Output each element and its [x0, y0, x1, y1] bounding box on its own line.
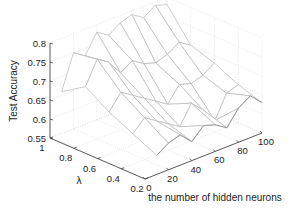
y-tick-label: 0.6	[83, 163, 96, 174]
z-tick-label: 0.65	[28, 95, 47, 106]
y-tick-label: 0.8	[59, 152, 72, 163]
y-tick-label: 1	[39, 142, 44, 153]
y-tick-label: 0.4	[107, 173, 120, 184]
y-axis-label: λ	[77, 175, 82, 186]
x-tick-label: 80	[237, 145, 248, 156]
x-tick-label: 20	[167, 173, 178, 184]
accuracy-surface	[62, 5, 262, 156]
x-tick-label: 100	[258, 136, 274, 147]
z-tick-label: 0.75	[28, 57, 47, 68]
surface-chart: 0.550.60.650.70.750.80.20.40.60.81020406…	[0, 0, 292, 211]
x-tick-label: 60	[214, 154, 225, 165]
z-tick-label: 0.8	[33, 38, 46, 49]
y-tick-label: 0.2	[130, 183, 143, 194]
z-tick-label: 0.7	[33, 76, 46, 87]
x-tick-label: 40	[191, 164, 202, 175]
z-axis-label: Test Accuracy	[8, 60, 19, 122]
z-tick-label: 0.6	[33, 114, 46, 125]
x-axis-label: the number of hidden neurons	[148, 192, 281, 203]
